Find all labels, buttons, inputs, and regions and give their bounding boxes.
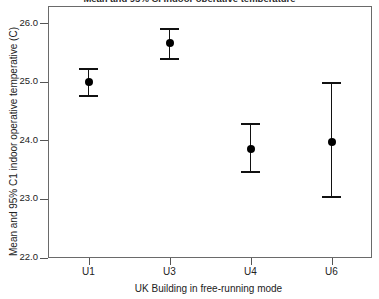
errorbar-cap-upper bbox=[322, 82, 341, 84]
plot-area bbox=[48, 6, 372, 258]
y-tick-mark bbox=[40, 258, 48, 259]
errorbar-cap-lower bbox=[79, 95, 98, 97]
y-tick-mark bbox=[40, 199, 48, 200]
chart-title: Mean and 95% CI indoor operative tempera… bbox=[0, 0, 379, 2]
x-tick-label-u4: U4 bbox=[231, 266, 271, 277]
y-tick-label: 26.0 bbox=[2, 18, 38, 28]
errorbar-cap-upper bbox=[79, 68, 98, 70]
x-axis-title: UK Building in free-running mode bbox=[44, 283, 373, 294]
y-tick-label: 24.0 bbox=[2, 135, 38, 145]
x-tick-label-u6: U6 bbox=[312, 266, 352, 277]
x-tick-label-u3: U3 bbox=[150, 266, 190, 277]
x-tick-label-u1: U1 bbox=[69, 266, 109, 277]
errorbar-cap-lower bbox=[322, 196, 341, 198]
errorbar-cap-lower bbox=[160, 58, 179, 60]
data-point-u3 bbox=[166, 39, 174, 47]
y-tick-mark bbox=[40, 140, 48, 141]
errorbar-cap-upper bbox=[241, 123, 260, 125]
x-tick-mark bbox=[251, 258, 252, 265]
data-point-u6 bbox=[328, 138, 336, 146]
data-point-u4 bbox=[247, 145, 255, 153]
figure-container: Mean and 95% CI indoor operative tempera… bbox=[0, 0, 379, 299]
y-tick-label: 23.0 bbox=[2, 193, 38, 203]
y-tick-mark bbox=[40, 23, 48, 24]
x-tick-mark bbox=[89, 258, 90, 265]
y-tick-mark bbox=[40, 82, 48, 83]
x-tick-mark bbox=[170, 258, 171, 265]
x-tick-mark bbox=[332, 258, 333, 265]
y-tick-label: 25.0 bbox=[2, 76, 38, 86]
y-tick-label: 22.0 bbox=[2, 252, 38, 262]
errorbar-cap-upper bbox=[160, 28, 179, 30]
errorbar-cap-lower bbox=[241, 171, 260, 173]
data-point-u1 bbox=[85, 78, 93, 86]
